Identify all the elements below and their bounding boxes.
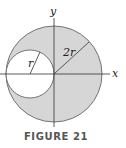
small-radius-label: r xyxy=(28,57,34,70)
large-radius-label: 2r xyxy=(62,46,76,59)
figure-diagram: y x 2r r xyxy=(0,0,126,148)
figure-caption: FIGURE 21 xyxy=(0,131,112,142)
x-axis-label: x xyxy=(112,67,119,80)
y-axis-label: y xyxy=(49,5,57,18)
